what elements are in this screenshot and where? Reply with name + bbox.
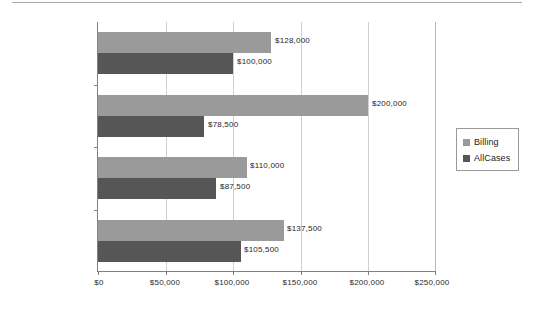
- bar-billing[interactable]: [98, 95, 368, 116]
- xtick-250000: [435, 271, 436, 275]
- chart-legend: Billing AllCases: [456, 128, 519, 171]
- legend-label: AllCases: [474, 153, 510, 163]
- x-tick-label: $0: [94, 278, 103, 287]
- xtick-0: [98, 271, 99, 275]
- gridline-250000: [435, 22, 436, 271]
- xtick-50000: [166, 271, 167, 275]
- ytick-boundary-3: [94, 210, 98, 211]
- bar-allcases[interactable]: [98, 241, 241, 262]
- legend-item-allcases[interactable]: AllCases: [463, 150, 518, 166]
- legend-swatch-icon: [463, 139, 470, 146]
- gridline-150000: [301, 22, 302, 271]
- legend-label: Billing: [474, 137, 499, 147]
- bar-value-label: $105,500: [244, 245, 279, 254]
- bar-value-label: $87,500: [220, 182, 250, 191]
- x-tick-label: $100,000: [215, 278, 250, 287]
- bar-allcases[interactable]: [98, 178, 216, 199]
- bar-value-label: $110,000: [250, 161, 284, 170]
- bar-value-label: $128,000: [275, 36, 310, 45]
- bar-value-label: $200,000: [372, 99, 407, 108]
- bar-value-label: $137,500: [287, 224, 322, 233]
- bar-value-label: $78,500: [208, 120, 238, 129]
- bar-billing[interactable]: [98, 157, 247, 178]
- xtick-100000: [233, 271, 234, 275]
- legend-item-billing[interactable]: Billing: [463, 134, 518, 150]
- bar-billing[interactable]: [98, 220, 284, 241]
- bar-billing[interactable]: [98, 32, 271, 53]
- x-tick-label: $250,000: [415, 278, 450, 287]
- ytick-boundary-1: [94, 85, 98, 86]
- bar-value-label: $100,000: [237, 57, 272, 66]
- x-tick-label: $150,000: [283, 278, 318, 287]
- bar-allcases[interactable]: [98, 53, 233, 74]
- x-tick-label: $200,000: [350, 278, 385, 287]
- xtick-150000: [301, 271, 302, 275]
- plot-area: $128,000 $100,000 $200,000 $78,500 $110,…: [97, 22, 435, 272]
- legend-swatch-icon: [463, 155, 470, 162]
- bar-chart: $128,000 $100,000 $200,000 $78,500 $110,…: [0, 0, 534, 312]
- ytick-boundary-2: [94, 147, 98, 148]
- bar-allcases[interactable]: [98, 116, 204, 137]
- gridline-200000: [368, 22, 369, 271]
- x-tick-label: $50,000: [150, 278, 180, 287]
- xtick-200000: [368, 271, 369, 275]
